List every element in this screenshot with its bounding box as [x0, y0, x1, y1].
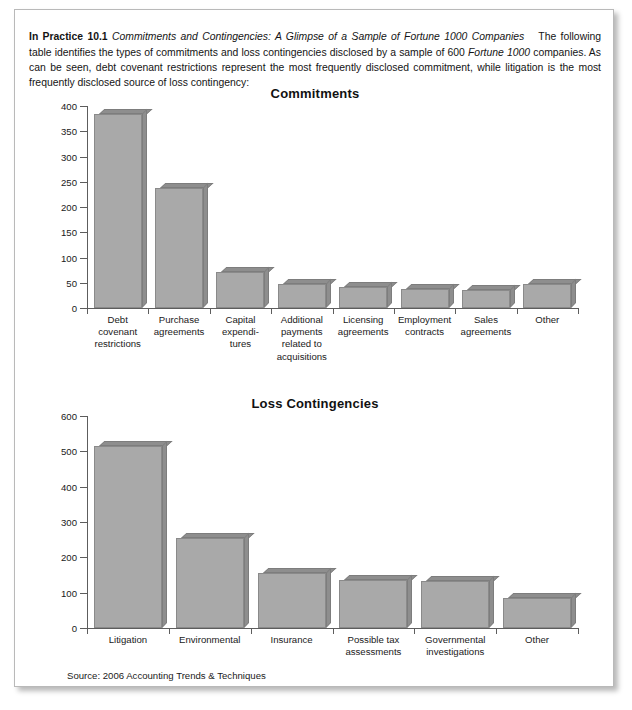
y-axis-tick-label: 200 [39, 552, 77, 563]
bar-front-face [503, 598, 571, 628]
bar-side-face [571, 279, 576, 308]
y-axis-tick [80, 157, 87, 158]
y-axis-tick-label: 0 [39, 623, 77, 634]
y-axis-tick-label: 100 [39, 252, 77, 263]
bar-side-face [203, 183, 208, 308]
x-axis-category-label: Other [492, 634, 582, 646]
x-axis-category-label: Possible tax assessments [329, 634, 419, 658]
bar-side-face [326, 279, 331, 308]
bar-front-face [176, 538, 244, 628]
y-axis-line [87, 106, 88, 308]
x-axis-category-label: Sales agreements [451, 314, 520, 338]
chart-commitments-plot: 050100150200250300350400Debt covenant re… [15, 100, 614, 386]
bar-side-face [387, 282, 392, 308]
bar-front-face [94, 446, 162, 628]
bar-front-face [278, 284, 326, 308]
bar [401, 289, 449, 308]
y-axis-tick [80, 593, 87, 594]
chart-loss-contingencies-plot: 0100200300400500600LitigationEnvironment… [15, 410, 614, 666]
bar-side-face [244, 533, 249, 628]
x-axis-category-label: Purchase agreements [144, 314, 213, 338]
x-axis-category-label: Insurance [247, 634, 337, 646]
y-axis-tick-label: 150 [39, 227, 77, 238]
chart-commitments-title: Commitments [15, 86, 614, 101]
bar-front-face [401, 289, 449, 308]
y-axis-tick [80, 207, 87, 208]
y-axis-tick-label: 500 [39, 446, 77, 457]
bar-front-face [216, 272, 264, 308]
y-axis-tick-label: 250 [39, 176, 77, 187]
bar-front-face [523, 284, 571, 308]
bar [503, 598, 571, 628]
y-axis-tick [80, 487, 87, 488]
y-axis-tick [80, 522, 87, 523]
bar [462, 290, 510, 308]
y-axis-tick-label: 400 [39, 481, 77, 492]
y-axis-tick-label: 400 [39, 101, 77, 112]
bar [176, 538, 244, 628]
bar [421, 581, 489, 628]
chart-loss-contingencies-title: Loss Contingencies [15, 396, 614, 411]
bar-front-face [421, 581, 489, 628]
y-axis-tick-label: 300 [39, 151, 77, 162]
bar-front-face [258, 573, 326, 628]
bar-side-face [571, 593, 576, 628]
x-axis-category-label: Additional payments related to acquisiti… [267, 314, 336, 363]
y-axis-tick [80, 106, 87, 107]
y-axis-line [87, 416, 88, 628]
x-axis-category-label: Other [513, 314, 582, 326]
bar-side-face [449, 284, 454, 308]
y-axis-tick-label: 100 [39, 587, 77, 598]
intro-title-italic: Commitments and Contingencies: A Glimpse… [112, 31, 524, 42]
bar [94, 446, 162, 628]
bar [216, 272, 264, 308]
y-axis-tick [80, 451, 87, 452]
chart-commitments: Commitments 050100150200250300350400Debt… [15, 86, 614, 386]
source-caption: Source: 2006 Accounting Trends & Techniq… [67, 670, 266, 681]
bar-side-face [510, 285, 515, 308]
bar [278, 284, 326, 308]
x-axis-category-label: Debt covenant restrictions [83, 314, 152, 351]
bar [339, 287, 387, 308]
y-axis-tick-label: 300 [39, 517, 77, 528]
y-axis-tick-label: 200 [39, 202, 77, 213]
y-axis-tick [80, 416, 87, 417]
y-axis-tick [80, 182, 87, 183]
y-axis-tick [80, 258, 87, 259]
bar-side-face [326, 568, 331, 628]
x-axis-category-label: Capital expendi- tures [206, 314, 275, 351]
bar-side-face [489, 576, 494, 628]
intro-paragraph: In Practice 10.1 Commitments and Conting… [29, 29, 601, 90]
bar-side-face [142, 108, 147, 308]
bar-front-face [94, 114, 142, 308]
bar [258, 573, 326, 628]
x-axis-category-label: Licensing agreements [329, 314, 398, 338]
y-axis-tick-label: 600 [39, 411, 77, 422]
x-axis-category-label: Governmental investigations [410, 634, 500, 658]
bar-front-face [462, 290, 510, 308]
bar [523, 284, 571, 308]
bar-side-face [162, 441, 167, 628]
y-axis-tick [80, 131, 87, 132]
y-axis-tick [80, 232, 87, 233]
y-axis-tick-label: 350 [39, 126, 77, 137]
bar-front-face [339, 580, 407, 628]
practice-box: In Practice 10.1 Commitments and Conting… [14, 9, 614, 687]
bar-side-face [407, 575, 412, 628]
intro-lead-label: In Practice 10.1 [29, 31, 108, 42]
x-axis-category-label: Employment contracts [390, 314, 459, 338]
bar-front-face [339, 287, 387, 308]
bar [339, 580, 407, 628]
y-axis-tick-label: 0 [39, 303, 77, 314]
y-axis-tick [80, 557, 87, 558]
bar [94, 114, 142, 308]
y-axis-tick [80, 308, 87, 309]
y-axis-tick [80, 628, 87, 629]
x-axis-category-label: Litigation [83, 634, 173, 646]
intro-body-italic: Fortune 1000 [468, 47, 530, 58]
chart-loss-contingencies: Loss Contingencies 0100200300400500600Li… [15, 396, 614, 666]
y-axis-tick-label: 50 [39, 277, 77, 288]
y-axis-tick [80, 283, 87, 284]
bar-front-face [155, 188, 203, 308]
bar [155, 188, 203, 308]
